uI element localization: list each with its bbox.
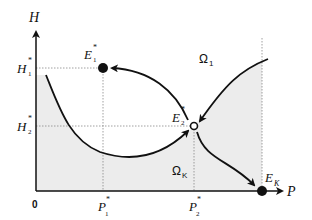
origin-label: 0 (32, 199, 38, 210)
h2-star-label: H * 2 (16, 114, 32, 136)
svg-text:K: K (273, 179, 280, 188)
svg-text:E: E (83, 47, 92, 62)
svg-text:2: 2 (28, 128, 32, 136)
e1-star-label: E * 1 (83, 43, 97, 64)
svg-text:Ω: Ω (199, 52, 208, 66)
svg-text:K: K (182, 171, 188, 180)
omega-1-label: Ω 1 (199, 52, 214, 68)
phase-portrait-diagram: H P 0 H * 1 H * 2 P * 1 P * 2 E * (0, 0, 312, 220)
ek-equilibrium-marker (257, 186, 267, 196)
svg-text:E: E (264, 170, 273, 185)
svg-text:1: 1 (105, 210, 109, 218)
svg-text:*: * (106, 195, 110, 204)
e2-equilibrium-marker (191, 123, 198, 130)
svg-text:*: * (181, 105, 185, 114)
svg-text:E: E (171, 110, 180, 125)
phase-plane-svg: H P 0 H * 1 H * 2 P * 1 P * 2 E * (0, 0, 312, 220)
e1-equilibrium-marker (98, 63, 108, 73)
svg-text:1: 1 (209, 59, 214, 68)
x-axis-label: P (286, 184, 296, 199)
p2-star-label: P * 2 (188, 195, 201, 218)
ek-label: E K (264, 170, 280, 188)
svg-text:Ω: Ω (172, 164, 181, 178)
svg-text:H: H (16, 119, 27, 134)
svg-text:1: 1 (28, 70, 32, 78)
h1-star-label: H * 1 (16, 56, 32, 78)
svg-text:2: 2 (196, 210, 200, 218)
e2-star-label: E * 2 (171, 105, 185, 127)
y-axis-label: H (28, 10, 40, 25)
p1-star-label: P * 1 (97, 195, 110, 218)
svg-text:1: 1 (93, 56, 97, 64)
svg-text:*: * (197, 195, 201, 204)
svg-text:*: * (93, 43, 97, 52)
svg-text:*: * (28, 56, 32, 65)
svg-text:*: * (28, 114, 32, 123)
svg-text:H: H (16, 61, 27, 76)
svg-text:2: 2 (181, 119, 185, 127)
